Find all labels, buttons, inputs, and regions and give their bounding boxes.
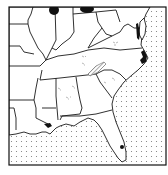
distribution-map <box>0 0 168 175</box>
occurrence-solid-florida <box>120 145 124 149</box>
occurrence-solid-indiana-ohio <box>80 5 94 13</box>
